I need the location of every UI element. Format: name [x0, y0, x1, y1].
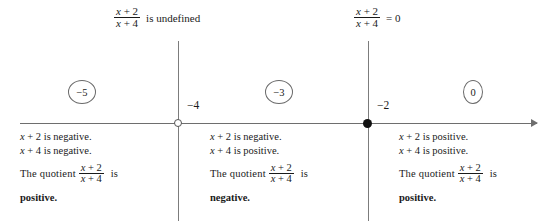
axis-tick-label-neg2: −2	[377, 99, 389, 111]
test-value-label: 0	[470, 87, 475, 98]
undefined-text: is undefined	[146, 12, 200, 24]
axis-tick-label-neg4: −4	[187, 99, 199, 111]
equals-zero-text: = 0	[386, 12, 400, 24]
sign-statement-denominator: x + 4 is positive.	[210, 144, 360, 158]
quotient-fraction: x + 2 x + 4	[79, 163, 104, 185]
numerator-rest: + 2	[275, 162, 291, 173]
statement-text: + 2 is negative.	[25, 131, 92, 142]
filled-dot-marker-neg2	[363, 119, 372, 128]
fraction-undefined: x + 2 x + 4	[114, 6, 140, 29]
sign-statement-denominator: x + 4 is positive.	[399, 144, 549, 158]
open-circle-marker-neg4	[174, 119, 182, 127]
sign-statement-numerator: x + 2 is positive.	[399, 130, 549, 144]
axis-arrowhead-icon	[531, 119, 538, 127]
quotient-tail-text: is	[301, 167, 308, 181]
quotient-statement: The quotient x + 2 x + 4 is	[399, 163, 549, 185]
divider-line-at-neg2	[368, 41, 369, 221]
test-value-neg3: −3	[265, 80, 293, 104]
quotient-fraction: x + 2 x + 4	[269, 163, 294, 185]
fraction-denominator: x + 4	[114, 18, 140, 29]
quotient-lead-text: The quotient	[399, 167, 455, 181]
test-value-zero: 0	[463, 80, 483, 104]
zero-annotation: x + 2 x + 4 = 0	[351, 6, 401, 29]
sign-statement-numerator: x + 2 is negative.	[20, 130, 170, 144]
divider-line-at-neg4	[178, 41, 179, 221]
fraction-denominator: x + 4	[269, 174, 294, 185]
quotient-tail-text: is	[490, 167, 497, 181]
interval-verdict: negative.	[210, 191, 360, 205]
test-value-label: −5	[76, 87, 87, 98]
numerator-rest: + 2	[361, 5, 378, 17]
statement-text: + 2 is negative.	[215, 131, 282, 142]
fraction-zero: x + 2 x + 4	[354, 6, 380, 29]
number-line-axis	[20, 123, 537, 124]
undefined-annotation: x + 2 x + 4 is undefined	[111, 6, 200, 29]
test-value-label: −3	[273, 87, 284, 98]
interval-middle-description: x + 2 is negative. x + 4 is positive. Th…	[210, 130, 360, 205]
numerator-rest: + 2	[121, 5, 138, 17]
statement-text: + 4 is negative.	[25, 145, 92, 156]
denominator-rest: + 4	[361, 17, 378, 29]
fraction-denominator: x + 4	[458, 174, 483, 185]
numerator-rest: + 2	[85, 162, 101, 173]
quotient-lead-text: The quotient	[210, 167, 266, 181]
statement-text: + 4 is positive.	[404, 145, 469, 156]
fraction-denominator: x + 4	[354, 18, 380, 29]
quotient-fraction: x + 2 x + 4	[458, 163, 483, 185]
denominator-rest: + 4	[464, 173, 480, 184]
denominator-rest: + 4	[85, 173, 101, 184]
sign-statement-numerator: x + 2 is negative.	[210, 130, 360, 144]
statement-text: + 4 is positive.	[215, 145, 280, 156]
quotient-statement: The quotient x + 2 x + 4 is	[210, 163, 360, 185]
statement-text: + 2 is positive.	[404, 131, 469, 142]
quotient-lead-text: The quotient	[20, 167, 76, 181]
fraction-denominator: x + 4	[79, 174, 104, 185]
quotient-tail-text: is	[111, 167, 118, 181]
denominator-rest: + 4	[121, 17, 138, 29]
quotient-statement: The quotient x + 2 x + 4 is	[20, 163, 170, 185]
sign-chart-diagram: x + 2 x + 4 is undefined x + 2 x + 4 = 0…	[0, 0, 551, 221]
interval-verdict: positive.	[20, 191, 170, 205]
interval-verdict: positive.	[399, 191, 549, 205]
denominator-rest: + 4	[275, 173, 291, 184]
numerator-rest: + 2	[464, 162, 480, 173]
interval-left-description: x + 2 is negative. x + 4 is negative. Th…	[20, 130, 170, 205]
test-value-neg5: −5	[68, 80, 96, 104]
interval-right-description: x + 2 is positive. x + 4 is positive. Th…	[399, 130, 549, 205]
sign-statement-denominator: x + 4 is negative.	[20, 144, 170, 158]
